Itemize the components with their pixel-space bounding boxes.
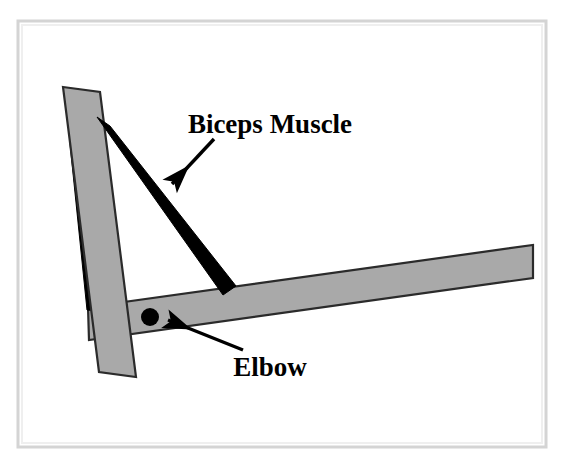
arm-lever-diagram: Biceps Muscle Elbow: [0, 0, 566, 465]
biceps-muscle-label: Biceps Muscle: [188, 109, 352, 139]
elbow-joint-dot: [141, 308, 159, 326]
elbow-label: Elbow: [233, 352, 307, 382]
diagram-canvas: Biceps Muscle Elbow: [0, 0, 566, 465]
